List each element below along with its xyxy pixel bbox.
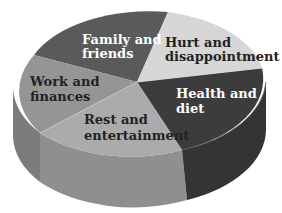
label-hurt-and-disappointment: Hurt and disappointment xyxy=(165,35,280,64)
pie-chart: Family and friends Hurt and disappointme… xyxy=(0,0,282,213)
